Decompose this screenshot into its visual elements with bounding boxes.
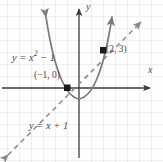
line-equation-label: y = x + 1: [29, 121, 68, 132]
parabola-equation-prefix: y = x: [12, 52, 34, 63]
x-axis-label: x: [148, 65, 152, 75]
coordinate-plane-svg: [0, 0, 163, 162]
math-figure: y = x2 − 1 y = x + 1 (−1, 0) (2, 3) x y: [0, 0, 163, 162]
parabola-equation-suffix: − 1: [37, 52, 55, 63]
point-label-2-3: (2, 3): [106, 45, 127, 55]
parabola-equation-label: y = x2 − 1: [12, 50, 55, 63]
y-axis-label: y: [86, 2, 90, 12]
point-label-minus1-0: (−1, 0): [34, 71, 60, 81]
point-marker-minus1-0: [64, 85, 71, 92]
